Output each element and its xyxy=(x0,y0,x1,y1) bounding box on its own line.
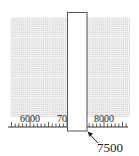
tick-label-8000: 8000 xyxy=(94,113,114,124)
cover-box xyxy=(68,13,88,132)
tick-label-6000: 6000 xyxy=(20,113,40,124)
pointer-label: 7500 xyxy=(97,140,123,155)
tick-label-7000-partial: 70 xyxy=(57,113,67,124)
number-line-diagram: 6000 70 8000 7500 xyxy=(0,0,139,156)
